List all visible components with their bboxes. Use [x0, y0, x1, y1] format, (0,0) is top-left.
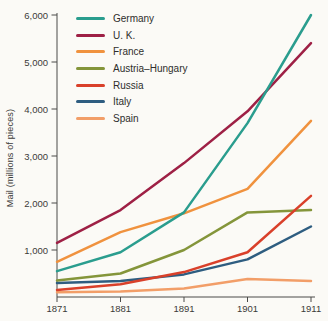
- legend-item-austria-hungary: Austria–Hungary: [76, 60, 187, 77]
- legend-label-germany: Germany: [113, 13, 154, 24]
- y-tick-label-1000: 1,000: [24, 245, 48, 256]
- legend-swatch-italy: [76, 100, 105, 103]
- legend-label-spain: Spain: [113, 113, 139, 124]
- legend-label-austria-hungary: Austria–Hungary: [113, 63, 187, 74]
- mail-volume-line-chart: Mail (millions of pieces) 1,0002,0003,00…: [0, 0, 328, 321]
- legend-label-italy: Italy: [113, 96, 131, 107]
- legend-item-italy: Italy: [76, 93, 187, 110]
- legend-label-france: France: [113, 46, 144, 57]
- legend-item-france: France: [76, 43, 187, 60]
- legend-swatch-austria-hungary: [76, 67, 105, 70]
- legend-label-u-k: U. K.: [113, 30, 135, 41]
- legend-label-russia: Russia: [113, 80, 144, 91]
- y-tick-label-4000: 4,000: [24, 104, 48, 115]
- series-line-italy: [57, 227, 311, 283]
- legend-item-russia: Russia: [76, 77, 187, 94]
- x-tick-label-1911: 1911: [301, 303, 321, 314]
- x-tick-label-1901: 1901: [237, 303, 258, 314]
- legend-item-spain: Spain: [76, 110, 187, 127]
- legend-swatch-france: [76, 50, 105, 53]
- legend-swatch-russia: [76, 84, 105, 87]
- legend-swatch-u-k: [76, 34, 105, 37]
- y-tick-label-2000: 2,000: [24, 198, 48, 209]
- x-tick-label-1881: 1881: [110, 303, 131, 314]
- y-tick-label-3000: 3,000: [24, 151, 48, 162]
- legend-item-u-k: U. K.: [76, 27, 187, 44]
- x-tick-label-1871: 1871: [46, 303, 67, 314]
- series-line-france: [57, 121, 311, 262]
- legend-swatch-spain: [76, 117, 105, 120]
- y-axis-title: Mail (millions of pieces): [5, 109, 15, 208]
- y-tick-label-6000: 6,000: [24, 10, 48, 21]
- x-tick-label-1891: 1891: [173, 303, 194, 314]
- y-tick-label-5000: 5,000: [24, 57, 48, 68]
- legend-swatch-germany: [76, 17, 105, 20]
- legend: GermanyU. K.FranceAustria–HungaryRussiaI…: [76, 10, 187, 127]
- legend-item-germany: Germany: [76, 10, 187, 27]
